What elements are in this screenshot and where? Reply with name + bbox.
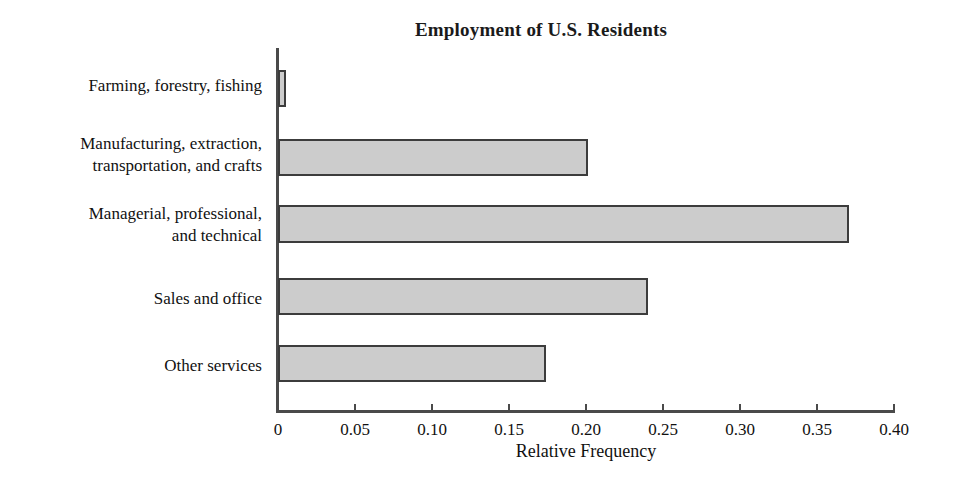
- x-tick-label: 0.20: [571, 420, 601, 440]
- x-tick-mark: [277, 404, 279, 413]
- bar-farming[interactable]: [278, 70, 286, 107]
- bar-sales-and-office[interactable]: [278, 278, 648, 315]
- x-tick-mark: [431, 404, 433, 413]
- x-tick-mark: [585, 404, 587, 413]
- category-label-other-services: Other services: [0, 355, 270, 377]
- category-label-manufacturing: Manufacturing, extraction, transportatio…: [0, 133, 270, 177]
- category-label-managerial: Managerial, professional, and technical: [0, 203, 270, 247]
- bar-managerial[interactable]: [278, 205, 849, 243]
- bar-row-managerial: [278, 205, 894, 243]
- x-axis-title: Relative Frequency: [278, 440, 894, 462]
- x-tick-label: 0.25: [648, 420, 678, 440]
- x-tick-label: 0.05: [340, 420, 370, 440]
- x-axis-title-text: Relative Frequency: [516, 441, 656, 461]
- x-tick-label: 0: [274, 420, 283, 440]
- x-tick-mark: [508, 404, 510, 413]
- x-tick-mark: [816, 404, 818, 413]
- bar-row-sales-and-office: [278, 278, 894, 315]
- category-label-sales-and-office: Sales and office: [0, 288, 270, 310]
- x-tick-label: 0.30: [725, 420, 755, 440]
- x-tick-mark: [739, 404, 741, 413]
- chart-title: Employment of U.S. Residents: [0, 18, 960, 42]
- category-axis-labels: Farming, forestry, fishing Manufacturing…: [0, 48, 270, 410]
- bar-other-services[interactable]: [278, 345, 546, 382]
- category-label-farming: Farming, forestry, fishing: [0, 75, 270, 97]
- bar-manufacturing[interactable]: [278, 139, 588, 176]
- x-tick-mark: [354, 404, 356, 413]
- x-tick-label: 0.35: [802, 420, 832, 440]
- plot-area: [278, 48, 894, 410]
- bar-row-farming: [278, 70, 894, 107]
- x-tick-label: 0.10: [417, 420, 447, 440]
- x-tick-label: 0.40: [879, 420, 909, 440]
- x-tick-mark: [662, 404, 664, 413]
- bar-row-manufacturing: [278, 139, 894, 176]
- x-tick-label: 0.15: [494, 420, 524, 440]
- x-tick-mark: [893, 404, 895, 413]
- chart-title-text: Employment of U.S. Residents: [415, 19, 667, 40]
- bar-row-other-services: [278, 345, 894, 382]
- bar-chart-figure: Employment of U.S. Residents Farming, fo…: [0, 0, 960, 499]
